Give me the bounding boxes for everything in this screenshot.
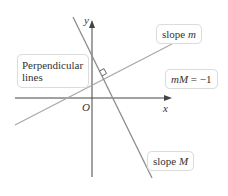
- slope-M-var: M: [179, 155, 188, 167]
- slope-m-prefix: slope: [162, 28, 188, 40]
- slope-M-prefix: slope: [153, 155, 179, 167]
- lines-text: lines: [22, 71, 84, 83]
- slope-m-callout: slope m: [156, 24, 202, 44]
- relation-lhs: mM: [171, 73, 188, 85]
- origin-label: O: [82, 101, 90, 113]
- x-axis-label: x: [163, 102, 168, 114]
- slope-m-var: m: [188, 28, 196, 40]
- y-axis-label: y: [84, 14, 89, 26]
- perpendicular-lines-callout: Perpendicular lines: [17, 54, 89, 88]
- perpendicular-text: Perpendicular: [22, 59, 84, 71]
- x-axis-arrow-icon: [164, 95, 172, 101]
- slope-M-callout: slope M: [147, 151, 194, 171]
- y-axis-arrow-icon: [89, 20, 95, 28]
- relation-rhs: = −1: [188, 73, 211, 85]
- relation-callout: mM = −1: [165, 69, 218, 89]
